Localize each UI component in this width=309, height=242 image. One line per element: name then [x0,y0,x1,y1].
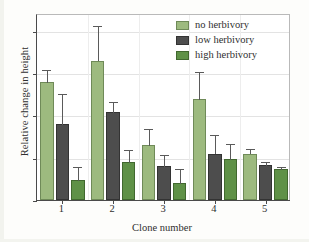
x-gridline [139,15,140,200]
legend-item: no herbivory [176,18,257,32]
legend-label: low herbivory [195,34,254,46]
bar-no-herbivory-clone-3 [142,145,156,200]
y-axis-title: Relative change in height [19,22,30,182]
error-bar-cap [160,155,169,156]
legend-swatch-icon [176,36,189,45]
error-bar-cap [109,102,118,103]
bar-low-herbivory-clone-1 [56,124,70,200]
error-bar-cap [226,144,235,145]
bar-low-herbivory-clone-5 [259,165,273,200]
bar-high-herbivory-clone-4 [224,159,238,200]
x-tick-label: 2 [92,203,132,214]
error-bar-cap [175,169,184,170]
bar-low-herbivory-clone-2 [106,112,120,200]
error-bar [62,94,63,125]
legend-label: no herbivory [195,19,249,31]
error-bar [113,102,114,114]
legend-item: low herbivory [176,33,257,47]
legend-label: high herbivory [195,49,257,61]
x-tick-label: 3 [143,203,183,214]
bar-no-herbivory-clone-2 [91,61,105,201]
y-gridline [37,74,289,75]
scan-edge-left [0,0,4,242]
legend: no herbivory low herbivory high herbivor… [176,18,257,63]
y-tick-mark [33,32,37,33]
y-tick-mark [33,74,37,75]
y-tick-mark [33,159,37,160]
x-tick-label: 5 [245,203,285,214]
bar-high-herbivory-clone-5 [274,169,288,200]
error-bar-cap [124,150,133,151]
error-bar-cap [144,129,153,130]
error-bar-cap [42,70,51,71]
x-axis-line [36,200,290,201]
y-tick-mark [33,116,37,117]
error-bar-cap [210,135,219,136]
bar-no-herbivory-clone-1 [40,82,54,200]
error-bar-cap [58,94,67,95]
error-bar [98,26,99,62]
bar-high-herbivory-clone-1 [71,180,85,200]
x-tick-label: 4 [194,203,234,214]
error-bar [199,72,200,99]
error-bar [215,135,216,154]
bar-low-herbivory-clone-4 [208,154,222,201]
error-bar [230,144,231,160]
legend-item: high herbivory [176,48,257,62]
x-axis-title: Clone number [34,222,290,233]
error-bar-cap [246,149,255,150]
y-gridline [37,116,289,117]
bar-low-herbivory-clone-3 [157,166,171,200]
error-bar-cap [195,72,204,73]
bar-no-herbivory-clone-5 [243,154,257,201]
bar-high-herbivory-clone-2 [122,162,136,200]
x-gridline [88,15,89,200]
legend-swatch-icon [176,51,189,60]
error-bar [129,150,130,163]
error-bar-cap [277,167,286,168]
x-tick-label: 1 [41,203,81,214]
chart-figure: Relative change in height Clone number n… [0,0,309,242]
error-bar [164,155,165,168]
error-bar-cap [93,26,102,27]
bar-no-herbivory-clone-4 [193,99,207,200]
bar-high-herbivory-clone-3 [173,183,187,200]
error-bar [78,167,79,181]
y-tick-mark [33,201,37,202]
error-bar-cap [73,167,82,168]
error-bar-cap [261,162,270,163]
error-bar [180,169,181,184]
legend-swatch-icon [176,21,189,30]
error-bar [149,129,150,146]
error-bar [47,70,48,83]
